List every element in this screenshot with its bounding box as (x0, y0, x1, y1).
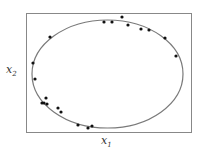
data-point (44, 96, 47, 99)
data-point (86, 126, 89, 129)
x-axis-label: x1 (101, 134, 112, 149)
data-point (59, 110, 62, 113)
fitted-ellipse (32, 20, 183, 128)
data-point (76, 123, 79, 126)
data-point (110, 20, 113, 23)
data-point (139, 27, 142, 30)
data-point (31, 61, 34, 64)
data-point (126, 23, 129, 26)
data-point (45, 102, 48, 105)
data-point (33, 77, 36, 80)
y-axis-label: x2 (6, 63, 17, 78)
data-point (48, 35, 51, 38)
data-point (120, 15, 123, 18)
plot-frame (27, 14, 192, 133)
y-label-sub: 2 (12, 70, 16, 78)
scatter-plot (0, 0, 201, 152)
data-point (102, 20, 105, 23)
data-point (90, 124, 93, 127)
data-point (147, 28, 150, 31)
data-point (42, 101, 45, 104)
data-point (163, 36, 166, 39)
x-label-sub: 1 (107, 141, 111, 149)
data-point (174, 54, 177, 57)
data-point (56, 106, 59, 109)
